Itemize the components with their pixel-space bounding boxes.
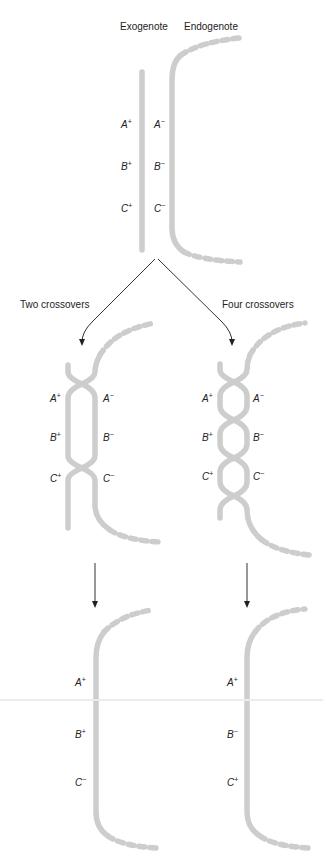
gene-label: A−: [253, 392, 264, 404]
gene-label: A+: [75, 676, 86, 688]
gene-label: B+: [50, 431, 61, 443]
endogenote-strand: [172, 55, 184, 252]
gene-label: A−: [154, 118, 165, 130]
gene-label: B+: [75, 728, 86, 740]
two-xo-bottom-dashed: [110, 530, 160, 542]
two-xo-top-dashed: [100, 323, 155, 355]
gene-label: C−: [253, 470, 264, 482]
four-xo-bottom-dashed: [262, 540, 310, 555]
gene-label: C+: [121, 202, 132, 214]
result-right-strand: [247, 632, 260, 836]
arrow-to-two-crossovers: [82, 259, 155, 342]
arrow-to-four-crossovers: [158, 259, 232, 342]
result-left-strand: [96, 632, 108, 836]
gene-label: A−: [103, 392, 114, 404]
gene-label: B−: [227, 728, 238, 740]
endogenote-top-dashed: [181, 38, 240, 55]
gene-label: C−: [154, 202, 165, 214]
four-crossovers-label: Four crossovers: [222, 299, 294, 310]
gene-label: C+: [50, 472, 61, 484]
gene-label: A+: [227, 676, 238, 688]
gene-label: C−: [103, 472, 114, 484]
gene-label: B−: [103, 431, 114, 443]
result-right-top-dashed: [255, 609, 305, 632]
arrowhead-down-four: [244, 601, 250, 608]
gene-label: A+: [202, 392, 213, 404]
arrowhead-down-two: [92, 601, 98, 608]
four-xo-top-dashed: [250, 323, 305, 355]
endogenote-label: Endogenote: [184, 21, 238, 32]
gene-label: A+: [50, 392, 61, 404]
exogenote-label: Exogenote: [120, 21, 168, 32]
gene-label: A+: [121, 118, 132, 130]
gene-label: C−: [75, 776, 86, 788]
gene-label: B+: [121, 160, 132, 172]
result-left-bottom-dashed: [108, 836, 156, 848]
endogenote-bottom-dashed: [184, 252, 240, 262]
arrowhead-left: [79, 339, 85, 346]
arrowhead-right: [229, 339, 235, 346]
scan-artifact-line: [0, 699, 323, 701]
two-crossovers-label: Two crossovers: [20, 299, 89, 310]
gene-label: C+: [202, 470, 213, 482]
result-right-bottom-dashed: [260, 836, 308, 848]
gene-label: C+: [227, 776, 238, 788]
gene-label: B−: [253, 431, 264, 443]
gene-label: B−: [154, 160, 165, 172]
gene-label: B+: [202, 431, 213, 443]
result-left-top-dashed: [104, 610, 152, 632]
